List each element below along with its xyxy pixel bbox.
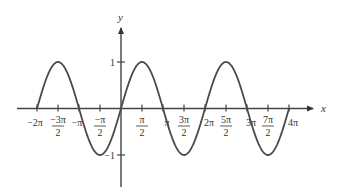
x-tick-label: 4π xyxy=(288,117,298,128)
x-tick-label-denominator: 2 xyxy=(97,127,102,138)
x-tick-label: −2π xyxy=(27,117,43,128)
sine-graph: x y −2π−3π2−π−π2π2π3π22π5π23π7π24π 1−1 xyxy=(0,0,342,189)
x-tick-label-numerator: 5π xyxy=(221,114,231,125)
x-tick-label: −π xyxy=(72,117,83,128)
y-tick-label: 1 xyxy=(110,57,115,68)
x-tick-label-numerator: 3π xyxy=(179,114,189,125)
x-tick-label-denominator: 2 xyxy=(224,127,229,138)
x-tick-label-denominator: 2 xyxy=(182,127,187,138)
x-tick-label-numerator: π xyxy=(139,114,144,125)
x-tick-label-numerator: −3π xyxy=(50,114,66,125)
x-axis-label: x xyxy=(320,102,326,114)
x-tick-label: 2π xyxy=(204,117,214,128)
y-axis-label: y xyxy=(117,11,123,23)
x-tick-label-denominator: 2 xyxy=(140,127,145,138)
x-tick-label-numerator: −π xyxy=(95,114,106,125)
x-tick-label-numerator: 7π xyxy=(263,114,273,125)
x-tick-label-denominator: 2 xyxy=(266,127,271,138)
x-tick-label-denominator: 2 xyxy=(55,127,60,138)
